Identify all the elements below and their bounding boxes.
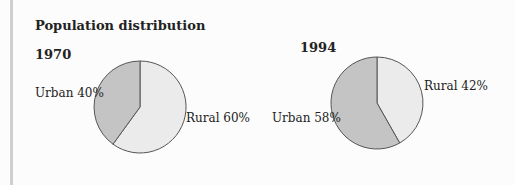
pie-1970 — [94, 61, 186, 153]
pie-1994 — [331, 57, 423, 149]
pie-1970-rural-label: Rural 60% — [186, 111, 250, 125]
pie-1994-rural-label: Rural 42% — [424, 79, 488, 93]
pie-1994-urban-label: Urban 58% — [272, 111, 341, 125]
pie-1970-urban-label: Urban 40% — [35, 86, 104, 100]
